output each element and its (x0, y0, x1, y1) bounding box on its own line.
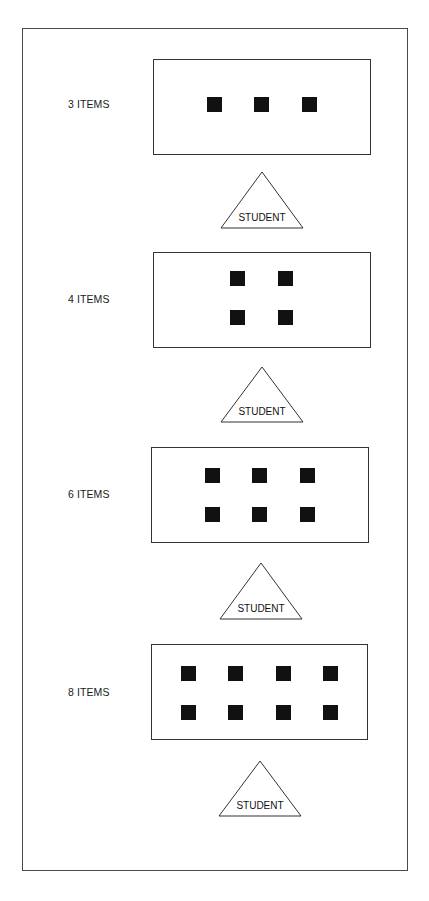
item-square (276, 705, 291, 720)
item-square (230, 271, 245, 286)
item-square (302, 97, 317, 112)
item-square (205, 507, 220, 522)
item-square (181, 705, 196, 720)
panel-label: 3 ITEMS (68, 98, 110, 110)
student-label: STUDENT (221, 212, 303, 223)
item-square (300, 468, 315, 483)
item-square (323, 666, 338, 681)
panel-label: 8 ITEMS (68, 686, 110, 698)
item-square (207, 97, 222, 112)
item-square (278, 310, 293, 325)
item-square (276, 666, 291, 681)
item-square (252, 468, 267, 483)
item-square (205, 468, 220, 483)
item-array-box (153, 252, 371, 348)
item-array-box (151, 447, 369, 543)
item-square (252, 507, 267, 522)
student-label: STUDENT (221, 406, 303, 417)
item-square (230, 310, 245, 325)
panel-label: 6 ITEMS (68, 488, 110, 500)
item-square (278, 271, 293, 286)
item-square (181, 666, 196, 681)
item-square (323, 705, 338, 720)
item-square (228, 705, 243, 720)
item-array-box (151, 644, 368, 740)
item-square (254, 97, 269, 112)
student-label: STUDENT (219, 800, 301, 811)
item-square (228, 666, 243, 681)
panel-label: 4 ITEMS (68, 293, 110, 305)
student-label: STUDENT (220, 603, 302, 614)
item-square (300, 507, 315, 522)
